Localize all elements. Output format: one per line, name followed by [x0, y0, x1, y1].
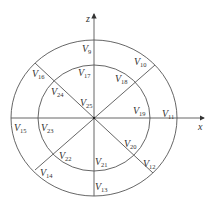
vector-label-v14: V14 [40, 167, 53, 179]
vector-label-v18: V18 [115, 73, 128, 85]
vector-label-v24: V24 [51, 86, 64, 98]
x-axis-label: x [197, 121, 203, 132]
vector-label-v11: V11 [162, 108, 174, 120]
vector-label-v10: V10 [134, 56, 147, 68]
vector-label-v15: V15 [14, 122, 27, 134]
vector-label-v22: V22 [59, 150, 72, 162]
vector-label-v12: V12 [143, 158, 156, 170]
vector-label-v21: V21 [95, 156, 108, 168]
origin-point [93, 117, 95, 119]
vector-label-v20: V20 [124, 138, 137, 150]
vector-label-v9: V9 [82, 43, 91, 55]
vector-label-v23: V23 [41, 122, 54, 134]
vector-label-v17: V17 [78, 67, 91, 79]
vector-label-v25: V25 [80, 97, 93, 109]
vector-label-v19: V19 [133, 105, 146, 117]
vector-label-v13: V13 [95, 181, 108, 193]
z-axis-label: z [85, 13, 90, 24]
space-vector-diagram: z x V9V10V11V12V13V14V15V16V17V18V19V20V… [0, 0, 213, 208]
vector-label-v16: V16 [32, 68, 45, 80]
